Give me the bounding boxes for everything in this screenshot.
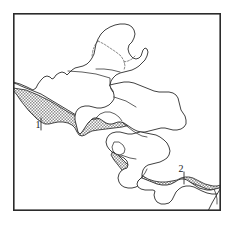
distribution-map-figure: 1 2 [0, 0, 236, 226]
map-label-1: 1 [36, 119, 41, 130]
coastline-panama [137, 178, 221, 204]
map-label-2: 2 [179, 163, 184, 174]
map-contents [13, 24, 221, 211]
map-canvas: 1 2 [0, 0, 236, 226]
